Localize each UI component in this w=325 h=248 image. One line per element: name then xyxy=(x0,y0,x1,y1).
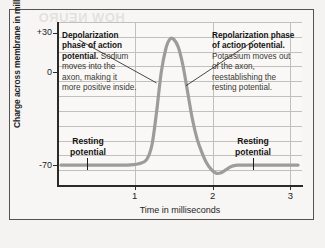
action-potential-figure: HOW NEURO +300-70 123 Charge across memb… xyxy=(0,0,325,248)
x-tick-label: 2 xyxy=(203,190,223,201)
x-axis-line xyxy=(57,185,303,187)
y-tick-label: -70 xyxy=(18,161,52,170)
annotation-repolarization-title: Repolarization phase of action potential… xyxy=(212,31,294,50)
y-tick-label: +30 xyxy=(18,28,52,37)
x-tick-label: 3 xyxy=(280,190,300,201)
leader-line-resting-right xyxy=(253,158,254,170)
x-tick-mark xyxy=(135,186,136,190)
x-tick-label: 1 xyxy=(125,190,145,201)
leader-line-resting-left xyxy=(87,158,88,170)
x-tick-mark xyxy=(213,186,214,190)
annotation-repolarization-body: Potassium moves out of the axon, reestab… xyxy=(212,52,290,92)
y-tick-label: 0 xyxy=(18,68,52,77)
label-resting-potential-right: Resting potential xyxy=(222,136,284,157)
y-axis-label: Charge across membrane in millivolts xyxy=(12,0,22,133)
x-tick-mark xyxy=(290,186,291,190)
label-resting-potential-left: Resting potential xyxy=(60,136,116,157)
annotation-depolarization: Depolarization phase of action potential… xyxy=(62,31,137,93)
annotation-repolarization: Repolarization phase of action potential… xyxy=(212,31,296,93)
x-axis-label: Time in milliseconds xyxy=(57,205,303,215)
